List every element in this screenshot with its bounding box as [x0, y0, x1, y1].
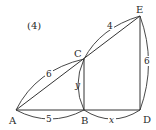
point-label-A: A [8, 115, 17, 126]
measure-CB: y [74, 80, 81, 90]
measure-ED: 6 [144, 56, 150, 66]
problem-label: (4) [27, 20, 41, 31]
point-label-D: D [143, 114, 151, 125]
point-label-E: E [136, 4, 143, 15]
measure-AB: 5 [46, 114, 52, 124]
measure-AC: 6 [46, 69, 52, 79]
geometry-figure: (4) 6 4 6 5 x y A B C D E [0, 0, 156, 130]
measure-CE: 4 [107, 21, 113, 31]
measure-BD: x [109, 115, 114, 125]
point-label-B: B [81, 115, 88, 126]
point-label-C: C [74, 48, 82, 59]
